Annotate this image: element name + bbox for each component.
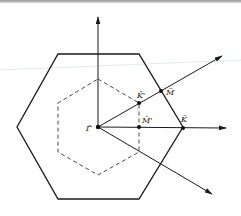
lower-diagonal-arrow [98,127,212,194]
gamma-point [96,125,100,129]
m-label: M̄ [165,88,175,97]
m-point [159,89,163,93]
m-prime-point [137,125,141,129]
k-prime-point [137,101,141,105]
horizontal-axis-arrow [98,127,226,128]
k-prime-label: K̄' [136,91,145,100]
brillouin-zone-diagram: Γ̄ K̄ M̄ K̄' M̄' [0,0,241,216]
gamma-label: Γ̄ [85,124,92,133]
k-label: K̄ [180,115,188,124]
m-prime-label: M̄' [141,116,152,125]
faint-scan-line [0,60,241,70]
k-point [181,126,185,130]
